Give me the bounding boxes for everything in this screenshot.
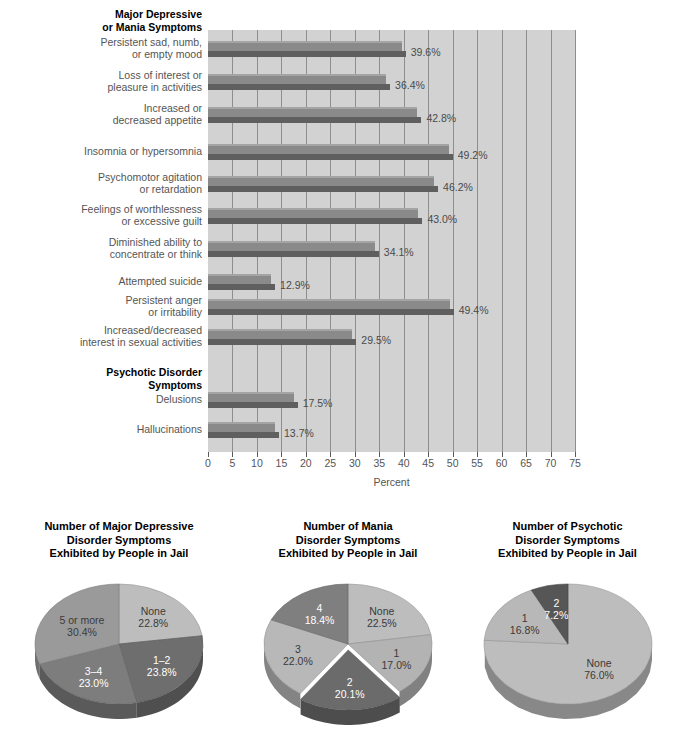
pie-slice-name: 3–4 (85, 665, 103, 677)
group-heading-line1: Major Depressive (2, 8, 202, 21)
bar-value-label: 12.9% (280, 279, 310, 291)
pie-slice-name: 5 or more (60, 614, 105, 626)
x-axis-title: Percent (208, 476, 575, 488)
gridline-70 (551, 30, 552, 452)
bar-depth-tip (375, 251, 379, 257)
pie-slice-name: None (369, 605, 394, 617)
pie-title-line3: Exhibited by People in Jail (0, 547, 238, 561)
pie-slice-name: 2 (553, 597, 559, 609)
bar-depth-tip (449, 154, 453, 160)
pie-slice-percent: 22.8% (138, 617, 168, 629)
bar-highlight (208, 74, 386, 76)
pie-title-line2: Disorder Symptoms (238, 534, 458, 548)
gridline-55 (477, 30, 478, 452)
bar-category-label-column: Major Depressive or Mania Symptoms Psych… (0, 0, 202, 500)
bar-value-label: 46.2% (443, 181, 473, 193)
bar-highlight (208, 422, 275, 424)
bar-depth-tip (418, 218, 422, 224)
gridline-65 (526, 30, 527, 452)
pie-slice-name: 3 (295, 643, 301, 655)
bar-value-label: 17.5% (303, 397, 333, 409)
bar-depth-tip (434, 186, 438, 192)
label-line1: Attempted suicide (2, 275, 202, 288)
bar-row (208, 74, 386, 90)
pie-slice-percent: 18.4% (305, 614, 335, 626)
bar-depth-shadow (208, 84, 386, 90)
bar-depth-shadow (208, 432, 275, 438)
bar-depth-shadow (208, 218, 418, 224)
bar-row (208, 107, 417, 123)
label-line1: Insomnia or hypersomnia (2, 145, 202, 158)
pie-title-line1: Number of Psychotic (458, 520, 677, 534)
pie-slice-percent: 23.8% (147, 666, 177, 678)
bar-category-label: Persistent angeror irritability (2, 294, 202, 319)
pie-title-line3: Exhibited by People in Jail (458, 547, 677, 561)
bar-category-label: Increased/decreasedinterest in sexual ac… (2, 324, 202, 349)
bar-category-label: Diminished ability toconcentrate or thin… (2, 236, 202, 261)
pie-title-line2: Disorder Symptoms (0, 534, 238, 548)
bar-depth-tip (275, 432, 279, 438)
bar-depth-shadow (208, 51, 402, 57)
bar-value-label: 29.5% (361, 334, 391, 346)
label-line1: Psychomotor agitation (2, 171, 202, 184)
bar-depth-tip (352, 339, 356, 345)
bar-row (208, 144, 449, 160)
bar-row (208, 176, 434, 192)
pie-graphic: None22.8%1–223.8%3–423.0%5 or more30.4% (24, 572, 214, 737)
gridline-50 (453, 30, 454, 452)
bar-value-label: 49.4% (459, 304, 489, 316)
pie-slice-name: 1 (521, 612, 527, 624)
bar-highlight (208, 274, 271, 276)
bar-category-label: Insomnia or hypersomnia (2, 145, 202, 158)
pie-title: Number of Major Depressive Disorder Symp… (0, 520, 238, 561)
bar-category-label: Hallucinations (2, 423, 202, 436)
label-line2: or empty mood (2, 48, 202, 61)
bar-depth-shadow (208, 154, 449, 160)
label-line1: Persistent anger (2, 294, 202, 307)
bar-value-label: 42.8% (426, 112, 456, 124)
bar-depth-shadow (208, 339, 352, 345)
pie-slice-name: 4 (317, 602, 323, 614)
label-line1: Increased/decreased (2, 324, 202, 337)
bar-category-label: Attempted suicide (2, 275, 202, 288)
bar-row (208, 241, 375, 257)
bar-highlight (208, 329, 352, 331)
label-line1: Persistent sad, numb, (2, 36, 202, 49)
pie-chart-mania: Number of Mania Disorder Symptoms Exhibi… (238, 520, 458, 745)
bar-category-label: Delusions (2, 393, 202, 406)
bar-depth-tip (402, 51, 406, 57)
pie-graphic: None76.0%116.8%27.2% (473, 572, 663, 737)
bar-value-label: 36.4% (395, 79, 425, 91)
bar-row (208, 274, 271, 290)
gridline-60 (502, 30, 503, 452)
bar-category-label: Persistent sad, numb,or empty mood (2, 36, 202, 61)
pie-title-line2: Disorder Symptoms (458, 534, 677, 548)
bar-highlight (208, 392, 294, 394)
bar-row (208, 41, 402, 57)
label-line1: Increased or (2, 102, 202, 115)
label-line2: decreased appetite (2, 114, 202, 127)
pie-svg: None22.5%117.0%220.1%322.0%418.4% (253, 572, 443, 737)
pie-chart-psychotic: Number of Psychotic Disorder Symptoms Ex… (458, 520, 677, 745)
bar-depth-tip (450, 309, 454, 315)
bar-category-label: Increased ordecreased appetite (2, 102, 202, 127)
bar-highlight (208, 41, 402, 43)
label-line1: Diminished ability to (2, 236, 202, 249)
group-heading-line2: or Mania Symptoms (2, 21, 202, 34)
gridline-40 (404, 30, 405, 452)
bar-depth-tip (294, 402, 298, 408)
bar-highlight (208, 299, 450, 301)
bar-highlight (208, 144, 449, 146)
label-line1: Delusions (2, 393, 202, 406)
label-line2: pleasure in activities (2, 81, 202, 94)
label-line2: or retardation (2, 183, 202, 196)
pie-svg: None76.0%116.8%27.2% (473, 572, 663, 737)
pie-title-line1: Number of Mania (238, 520, 458, 534)
gridline-35 (379, 30, 380, 452)
label-line2: concentrate or think (2, 248, 202, 261)
bar-category-label: Loss of interest orpleasure in activitie… (2, 69, 202, 94)
bar-value-label: 34.1% (384, 246, 414, 258)
bar-depth-shadow (208, 117, 417, 123)
pie-graphic: None22.5%117.0%220.1%322.0%418.4% (253, 572, 443, 737)
bar-value-label: 39.6% (411, 46, 441, 58)
